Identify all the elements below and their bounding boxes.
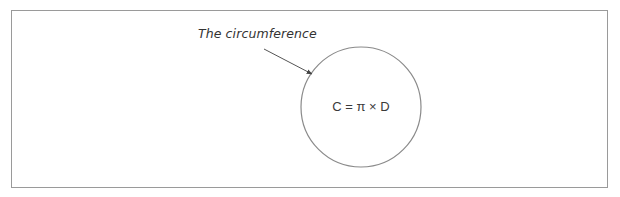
formula-text: C = π × D — [311, 99, 411, 114]
circumference-label: The circumference — [198, 26, 317, 41]
pointer-arrow — [264, 49, 312, 74]
